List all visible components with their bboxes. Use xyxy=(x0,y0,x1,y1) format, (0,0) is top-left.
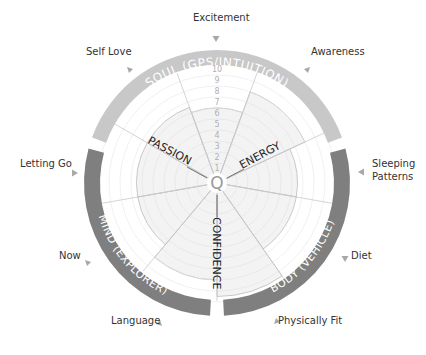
pointer-arrow-icon xyxy=(213,36,220,42)
pointer-arrow-icon xyxy=(85,260,91,266)
outer-label: Physically Fit xyxy=(278,315,342,327)
outer-label: Letting Go xyxy=(20,158,72,170)
pointer-arrow-icon xyxy=(72,170,78,177)
pointer-arrow-icon xyxy=(342,256,349,262)
outer-label: Excitement xyxy=(193,12,250,24)
scale-tick: 4 xyxy=(214,131,219,140)
svg-text:CONFIDENCE: CONFIDENCE xyxy=(210,217,223,289)
outer-label: Language xyxy=(111,315,160,327)
outer-label: Diet xyxy=(351,250,372,262)
scale-tick: 3 xyxy=(214,142,219,151)
scale-tick: 5 xyxy=(214,120,219,129)
scale-tick: 7 xyxy=(214,98,219,107)
outer-label: Now xyxy=(59,250,81,262)
center-logo: Q xyxy=(208,173,226,193)
pointer-arrow-icon xyxy=(127,67,133,73)
outer-label: Sleeping xyxy=(372,158,415,170)
outer-label: Awareness xyxy=(311,46,365,58)
scale-tick: 6 xyxy=(214,109,219,118)
scale-tick: 8 xyxy=(214,87,219,96)
pointer-arrow-icon xyxy=(358,169,364,176)
scale-tick: 10 xyxy=(212,65,222,74)
scale-tick: 9 xyxy=(214,76,219,85)
outer-label: Self Love xyxy=(86,46,132,58)
pointer-arrow-icon xyxy=(304,67,310,73)
outer-label: Patterns xyxy=(372,171,413,183)
scale-tick: 1 xyxy=(214,164,219,173)
scale-tick: 2 xyxy=(214,153,219,162)
center-q: Q xyxy=(210,173,223,193)
